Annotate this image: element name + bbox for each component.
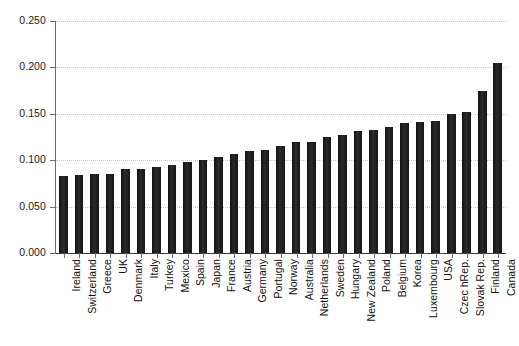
y-tick-mark xyxy=(50,67,55,68)
x-axis-category-label: New Zealand xyxy=(364,259,379,321)
x-tick-mark xyxy=(328,253,329,258)
y-tick-mark xyxy=(50,21,55,22)
x-tick-mark xyxy=(172,253,173,258)
x-tick-mark xyxy=(312,253,313,258)
y-tick-mark xyxy=(50,114,55,115)
bar[interactable] xyxy=(400,123,409,253)
bar[interactable] xyxy=(106,174,115,253)
bar[interactable] xyxy=(307,142,316,253)
x-tick-mark xyxy=(95,253,96,258)
bar[interactable] xyxy=(183,162,192,253)
x-tick-mark xyxy=(343,253,344,258)
bar[interactable] xyxy=(431,121,440,253)
x-axis-category-label: Italy xyxy=(147,259,162,279)
y-tick-label: 0.050 xyxy=(0,200,46,212)
x-tick-mark xyxy=(126,253,127,258)
bar[interactable] xyxy=(478,91,487,253)
x-axis-category-label: Luxembourg xyxy=(426,259,441,318)
x-axis-category-label: Spain xyxy=(193,259,208,286)
x-axis-category-label: Belgium xyxy=(395,259,410,297)
x-axis-category-label: Turkey xyxy=(162,259,177,291)
y-tick-mark xyxy=(50,207,55,208)
x-tick-mark xyxy=(297,253,298,258)
bar[interactable] xyxy=(416,122,425,253)
bar[interactable] xyxy=(214,157,223,253)
x-tick-mark xyxy=(79,253,80,258)
x-axis-category-label: Switzerland xyxy=(85,259,100,314)
x-axis-category-label: Mexico xyxy=(178,259,193,293)
y-tick-mark xyxy=(50,160,55,161)
x-tick-mark xyxy=(390,253,391,258)
bar[interactable] xyxy=(121,169,130,253)
x-axis-labels: IrelandSwitzerlandGreeceUKDenmarkItalyTu… xyxy=(56,259,506,346)
bar[interactable] xyxy=(354,131,363,253)
x-axis-category-label: Australia xyxy=(302,259,317,300)
x-tick-mark xyxy=(467,253,468,258)
x-tick-mark xyxy=(219,253,220,258)
bar[interactable] xyxy=(75,175,84,253)
bar[interactable] xyxy=(292,142,301,253)
bar[interactable] xyxy=(137,169,146,253)
x-tick-mark xyxy=(421,253,422,258)
y-tick-label: 0.100 xyxy=(0,153,46,165)
x-tick-mark xyxy=(483,253,484,258)
x-tick-mark xyxy=(374,253,375,258)
x-axis-category-label: Norway xyxy=(286,259,301,295)
x-tick-mark xyxy=(250,253,251,258)
x-axis-category-label: Germany xyxy=(255,259,270,303)
x-axis-category-label: UK xyxy=(116,259,131,274)
y-tick-label: 0.150 xyxy=(0,107,46,119)
x-axis-category-label: Japan xyxy=(209,259,224,288)
x-axis-category-label: Slovak Rep. xyxy=(473,259,488,316)
bar[interactable] xyxy=(323,137,332,253)
y-tick-label: 0.200 xyxy=(0,60,46,72)
x-tick-mark xyxy=(234,253,235,258)
x-axis-category-label: Canada xyxy=(504,259,519,296)
bar[interactable] xyxy=(199,160,208,253)
x-tick-mark xyxy=(157,253,158,258)
bars-layer xyxy=(56,21,506,253)
bar[interactable] xyxy=(338,135,347,253)
x-axis-category-label: Poland xyxy=(379,259,394,292)
x-tick-mark xyxy=(405,253,406,258)
bar[interactable] xyxy=(59,176,68,253)
x-axis-category-label: Greece xyxy=(100,259,115,294)
bar[interactable] xyxy=(90,174,99,253)
x-tick-mark xyxy=(281,253,282,258)
bar[interactable] xyxy=(493,63,502,253)
y-tick-label: 0.000 xyxy=(0,246,46,258)
bar[interactable] xyxy=(230,154,239,253)
x-tick-mark xyxy=(188,253,189,258)
x-axis-category-label: Portugal xyxy=(271,259,286,299)
bar[interactable] xyxy=(261,150,270,253)
x-axis-category-label: Finland xyxy=(488,259,503,294)
x-axis-category-label: Ireland xyxy=(69,259,84,291)
x-tick-mark xyxy=(110,253,111,258)
bar[interactable] xyxy=(276,146,285,253)
y-tick-mark xyxy=(50,253,55,254)
bar[interactable] xyxy=(385,127,394,253)
x-axis-category-label: Hungary xyxy=(348,259,363,299)
x-axis-category-label: USA xyxy=(441,259,456,281)
bar[interactable] xyxy=(168,165,177,253)
bar[interactable] xyxy=(152,167,161,253)
bar[interactable] xyxy=(369,130,378,253)
x-axis-category-label: Netherlands xyxy=(317,259,332,316)
x-tick-mark xyxy=(265,253,266,258)
x-axis-category-label: Czec hRep. xyxy=(457,259,472,314)
bar[interactable] xyxy=(245,151,254,253)
x-tick-mark xyxy=(452,253,453,258)
bar[interactable] xyxy=(447,114,456,253)
x-tick-mark xyxy=(141,253,142,258)
x-axis-category-label: Korea xyxy=(410,259,425,287)
x-tick-mark xyxy=(436,253,437,258)
x-tick-mark xyxy=(203,253,204,258)
x-tick-mark xyxy=(359,253,360,258)
x-axis-category-label: Sweden xyxy=(333,259,348,297)
x-axis-category-label: Denmark xyxy=(131,259,146,302)
bar[interactable] xyxy=(462,112,471,253)
x-tick-mark xyxy=(64,253,65,258)
x-tick-mark xyxy=(498,253,499,258)
y-tick-label: 0.250 xyxy=(0,14,46,26)
